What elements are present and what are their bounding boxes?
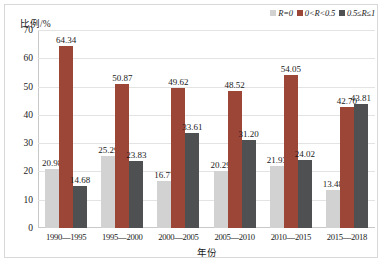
bar[interactable]: 16.77 — [157, 181, 171, 228]
y-tick-label-0: 0 — [28, 223, 33, 233]
legend-item-2[interactable]: 0.5≤R≤1 — [339, 8, 375, 18]
bar-fill — [129, 161, 143, 228]
bar-fill — [242, 140, 256, 228]
plot-area: 706050403020100 20.9864.3414.6825.2950.8… — [38, 30, 375, 228]
bar-value-label: 48.52 — [224, 80, 244, 90]
bar[interactable]: 14.68 — [73, 186, 87, 228]
bar-groups: 20.9864.3414.6825.2950.8723.8316.7749.62… — [38, 30, 375, 228]
bar[interactable]: 13.48 — [326, 190, 340, 228]
y-tick-label-30: 30 — [24, 138, 34, 148]
bar[interactable]: 20.29 — [214, 171, 228, 228]
bar-fill — [157, 181, 171, 228]
bar-value-label: 49.62 — [168, 77, 188, 87]
bar-fill — [228, 91, 242, 228]
chart-legend: R=0 0<R<0.5 0.5≤R≤1 — [270, 8, 375, 18]
y-tick-label-20: 20 — [24, 166, 34, 176]
bar[interactable]: 25.29 — [101, 156, 115, 228]
bar-fill — [73, 186, 87, 228]
bar[interactable]: 33.61 — [185, 133, 199, 228]
bar-value-label: 54.05 — [281, 64, 301, 74]
x-tick-label: 2005—2010 — [207, 232, 263, 242]
legend-swatch-r-high — [339, 10, 345, 16]
legend-swatch-r-mid — [297, 10, 303, 16]
bar-value-label: 23.83 — [126, 150, 146, 160]
bar-value-label: 64.34 — [56, 35, 76, 45]
bar-fill — [340, 107, 354, 228]
bar[interactable]: 48.52 — [228, 91, 242, 228]
bar-fill — [214, 171, 228, 228]
x-tick-label: 2010—2015 — [263, 232, 319, 242]
bar-value-label: 43.81 — [351, 93, 371, 103]
legend-item-1[interactable]: 0<R<0.5 — [297, 8, 335, 18]
bar-group: 16.7749.6233.61 — [150, 30, 206, 228]
bar[interactable]: 24.02 — [298, 160, 312, 228]
bar[interactable]: 23.83 — [129, 161, 143, 228]
bar-value-label: 33.61 — [182, 122, 202, 132]
x-axis-title: 年份 — [38, 245, 375, 259]
x-tick-label: 2000—2005 — [150, 232, 206, 242]
y-tick-label-70: 70 — [24, 25, 34, 35]
legend-label-1: 0<R<0.5 — [305, 8, 335, 18]
bar-group: 13.4842.7043.81 — [319, 30, 375, 228]
bar-fill — [326, 190, 340, 228]
bar[interactable]: 20.98 — [45, 169, 59, 228]
y-tick-label-50: 50 — [24, 82, 34, 92]
bar-fill — [45, 169, 59, 228]
bar-fill — [171, 88, 185, 228]
bar-value-label: 31.20 — [238, 129, 258, 139]
y-tick-label-60: 60 — [24, 53, 34, 63]
legend-item-0[interactable]: R=0 — [270, 8, 293, 18]
x-tick-label: 2015—2018 — [319, 232, 375, 242]
bar[interactable]: 64.34 — [59, 46, 73, 228]
bar[interactable]: 42.70 — [340, 107, 354, 228]
x-tick-label: 1995—2000 — [94, 232, 150, 242]
legend-swatch-r0 — [270, 10, 276, 16]
bar[interactable]: 49.62 — [171, 88, 185, 228]
y-tick-label-10: 10 — [24, 195, 34, 205]
bar[interactable]: 21.93 — [270, 166, 284, 228]
bar-fill — [270, 166, 284, 228]
bar[interactable]: 31.20 — [242, 140, 256, 228]
x-axis-tick-labels: 1990—19951995—20002000—20052005—20102010… — [38, 232, 375, 242]
bar-fill — [101, 156, 115, 228]
bar-value-label: 24.02 — [295, 149, 315, 159]
bar-value-label: 14.68 — [70, 175, 90, 185]
legend-label-0: R=0 — [278, 8, 293, 18]
bar-value-label: 50.87 — [112, 73, 132, 83]
legend-label-2: 0.5≤R≤1 — [347, 8, 375, 18]
x-tick-label: 1990—1995 — [38, 232, 94, 242]
bar-group: 20.9864.3414.68 — [38, 30, 94, 228]
y-tick-label-40: 40 — [24, 110, 34, 120]
bar-fill — [59, 46, 73, 228]
bar-group: 20.2948.5231.20 — [207, 30, 263, 228]
bar[interactable]: 43.81 — [354, 104, 368, 228]
bar-group: 25.2950.8723.83 — [94, 30, 150, 228]
bar-fill — [185, 133, 199, 228]
bar-fill — [354, 104, 368, 228]
bar-fill — [298, 160, 312, 228]
bar-chart: 比例/% R=0 0<R<0.5 0.5≤R≤1 706050403020100… — [0, 0, 384, 270]
bar-group: 21.9354.0524.02 — [263, 30, 319, 228]
